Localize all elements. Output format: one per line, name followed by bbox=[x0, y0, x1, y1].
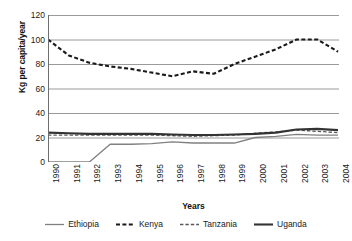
x-tick-label: 1990 bbox=[52, 164, 61, 202]
x-tick-label: 1992 bbox=[93, 164, 102, 202]
legend-swatch-ethiopia-icon bbox=[45, 220, 64, 229]
legend-swatch-tanzania-icon bbox=[180, 220, 199, 229]
data-series-layer bbox=[48, 40, 338, 163]
x-tick-label: 1995 bbox=[156, 164, 165, 202]
x-tick-label: 1997 bbox=[197, 164, 206, 202]
series-line-kenya bbox=[48, 40, 338, 77]
plot-area bbox=[48, 15, 339, 162]
x-tick-label: 1996 bbox=[176, 164, 185, 202]
x-tick-label: 2004 bbox=[342, 164, 351, 202]
x-tick-label: 1993 bbox=[114, 164, 123, 202]
legend-label: Ethiopia bbox=[68, 220, 99, 229]
legend-item-uganda[interactable]: Uganda bbox=[254, 220, 307, 229]
y-tick-label: 0 bbox=[19, 158, 45, 167]
y-tick-label: 60 bbox=[19, 85, 45, 94]
legend-swatch-kenya-icon bbox=[116, 220, 135, 229]
x-tick-label: 1999 bbox=[238, 164, 247, 202]
legend-label: Kenya bbox=[139, 220, 163, 229]
legend-label: Uganda bbox=[277, 220, 307, 229]
x-tick-label: 1998 bbox=[218, 164, 227, 202]
x-tick-label: 2001 bbox=[280, 164, 289, 202]
x-axis-tick-labels: 1990199119921993199419951996199719981999… bbox=[48, 164, 339, 204]
x-tick-label: 1994 bbox=[135, 164, 144, 202]
legend-swatch-uganda-icon bbox=[254, 220, 273, 229]
y-axis-tick-labels: 020406080100120 bbox=[17, 0, 45, 241]
gridlines bbox=[48, 16, 339, 163]
plot-svg bbox=[48, 15, 339, 162]
y-tick-label: 20 bbox=[19, 134, 45, 143]
line-chart: Kg per capita/year 020406080100120 19901… bbox=[0, 0, 352, 241]
y-tick-label: 120 bbox=[19, 11, 45, 20]
x-axis-title: Years bbox=[48, 201, 339, 211]
legend-item-kenya[interactable]: Kenya bbox=[116, 220, 163, 229]
legend-label: Tanzania bbox=[203, 220, 237, 229]
y-tick-label: 80 bbox=[19, 60, 45, 69]
legend-item-ethiopia[interactable]: Ethiopia bbox=[45, 220, 99, 229]
chart-legend: EthiopiaKenyaTanzaniaUganda bbox=[0, 216, 352, 232]
series-line-ethiopia bbox=[48, 134, 338, 162]
y-tick-label: 40 bbox=[19, 109, 45, 118]
x-tick-label: 1991 bbox=[73, 164, 82, 202]
x-tick-label: 2000 bbox=[259, 164, 268, 202]
y-tick-label: 100 bbox=[19, 36, 45, 45]
legend-item-tanzania[interactable]: Tanzania bbox=[180, 220, 237, 229]
x-tick-label: 2002 bbox=[301, 164, 310, 202]
x-tick-label: 2003 bbox=[321, 164, 330, 202]
